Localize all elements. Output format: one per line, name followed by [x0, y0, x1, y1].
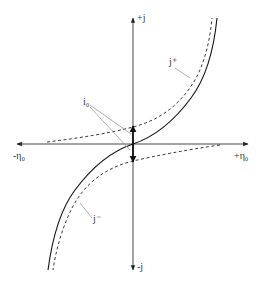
- j-plus-label: j⁺: [169, 57, 177, 67]
- current-overpotential-diagram: +j -j -η₀ +η₀ j⁺ j⁻ i₀: [0, 0, 262, 285]
- x-negative-label: -η₀: [13, 151, 25, 161]
- diagram-canvas: [0, 0, 262, 285]
- x-positive-label: +η₀: [234, 151, 248, 161]
- y-negative-label: -j: [137, 262, 143, 272]
- j-minus-leader: [80, 203, 92, 218]
- j-plus-curve: [47, 18, 212, 142]
- i0-label: i₀: [83, 97, 89, 107]
- y-positive-label: +j: [137, 13, 145, 23]
- i0-leader-upper: [90, 105, 131, 134]
- j-plus-leader: [175, 68, 190, 78]
- j-minus-label: j⁻: [93, 214, 101, 224]
- j-minus-curve: [53, 145, 220, 270]
